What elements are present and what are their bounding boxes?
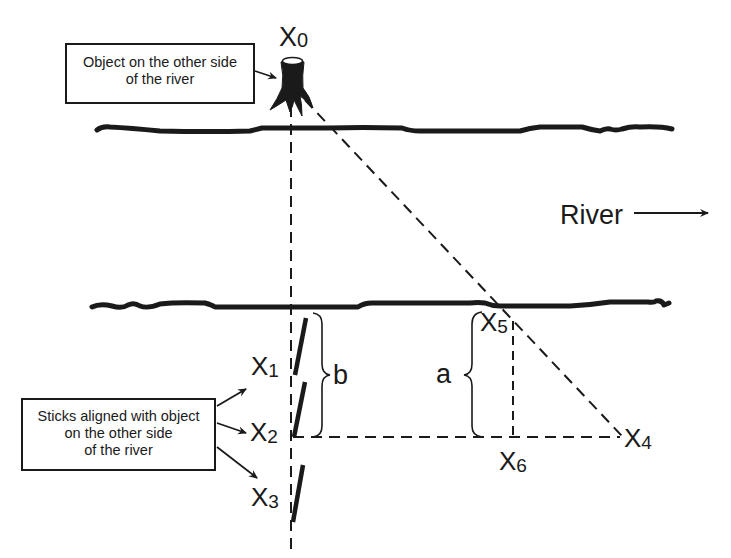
river-label: River: [560, 200, 623, 230]
label-x0: X0: [279, 22, 308, 52]
sticks-callout-line-1: Sticks aligned with object: [21, 408, 216, 425]
sticks-callout-text: Sticks aligned with object on the other …: [21, 408, 216, 459]
stick-x2: [294, 382, 305, 437]
label-x3: X3: [251, 482, 279, 512]
sticks-callout-line-2: on the other side: [21, 425, 216, 442]
label-distance-a: a: [436, 359, 452, 389]
stick-x1: [295, 318, 306, 375]
label-x2: X2: [250, 417, 278, 447]
sticks-arrow-x3: [217, 447, 257, 478]
label-x4: X4: [624, 423, 652, 453]
brace-b: [313, 313, 330, 437]
stick-x3: [293, 465, 303, 522]
sticks-callout-line-3: of the river: [21, 442, 216, 459]
object-callout-line-1: Object on the other side: [65, 54, 255, 71]
object-callout-line-2: of the river: [65, 71, 255, 88]
far-river-bank: [97, 127, 672, 132]
sticks-arrow-x1: [217, 389, 246, 406]
label-x6: X6: [499, 446, 527, 476]
object-callout-text: Object on the other side of the river: [65, 54, 255, 88]
label-x1: X1: [251, 351, 279, 381]
label-distance-b: b: [333, 360, 348, 390]
near-river-bank: [92, 301, 669, 307]
diagram-canvas: X0 X1 X2 X3 X4 X5 X6 b a River Object on…: [0, 0, 731, 558]
object-callout-arrow: [255, 71, 276, 78]
sight-line-diagonal: [305, 100, 622, 436]
tree-stump-icon: [270, 58, 313, 117]
sticks-arrow-x2: [217, 423, 246, 433]
